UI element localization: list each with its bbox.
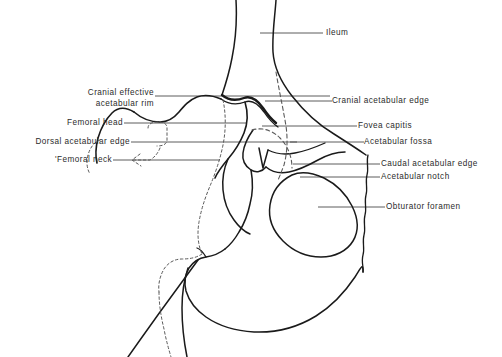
label-cranial-acetabular-edge: Cranial acetabular edge (332, 96, 429, 107)
cranial-acetabular-edge (268, 143, 325, 154)
ischium-caudal-border (225, 170, 252, 249)
label-femoral-head: Femoral head (67, 118, 123, 129)
label-ileum: Ileum (326, 28, 348, 39)
femoral-head-caudal-contour (215, 102, 247, 178)
acetabular-notch (259, 148, 268, 168)
label-cranial-effective-acetabular-rim-line2: acetabular rim (88, 99, 154, 110)
dotted-femoral-neck-axis (132, 148, 160, 166)
obturator-foramen (270, 173, 357, 257)
femoral-shaft-cranial-border (128, 260, 198, 357)
bone-outlines (96, 0, 368, 357)
label-cranial-effective-acetabular-rim: Cranial effective acetabular rim (88, 88, 154, 109)
label-acetabular-fossa: Acetabular fossa (364, 137, 432, 148)
dashed-overlays (87, 72, 292, 357)
cut-edge-wavy-border (362, 155, 368, 272)
pelvic-floor-outline (185, 249, 363, 332)
label-femoral-neck: 'Femoral neck (55, 155, 112, 166)
dashed-acetabular-medial-wall (252, 129, 292, 168)
label-dorsal-acetabular-edge: Dorsal acetabular edge (35, 137, 130, 148)
leader-lines (113, 33, 385, 207)
ilium-medial-border (222, 0, 236, 95)
label-caudal-acetabular-edge: Caudal acetabular edge (381, 159, 478, 170)
dotted-proximal-femur-outline (159, 254, 202, 292)
label-cranial-effective-acetabular-rim-line1: Cranial effective (88, 88, 154, 99)
ilium-lateral-border (273, 0, 366, 155)
label-acetabular-notch: Acetabular notch (381, 172, 450, 183)
ischium-cranial-border (223, 159, 250, 234)
dotted-femoral-shaft-overlay (159, 292, 171, 357)
label-fovea-capitis: Fovea capitis (358, 121, 412, 132)
cranial-effective-acetabular-rim (222, 95, 276, 123)
label-obturator-foramen: Obturator foramen (386, 202, 461, 213)
anatomical-figure: Cranial effective acetabular rim Femoral… (0, 0, 502, 357)
caudal-acetabular-edge (266, 152, 345, 173)
